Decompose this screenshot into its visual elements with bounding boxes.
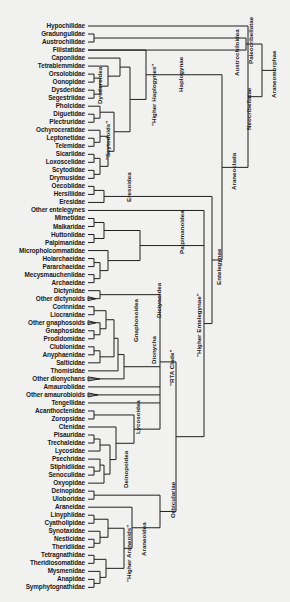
taxon-label: Anyphaenidae bbox=[43, 351, 85, 359]
taxon-label: Other entelegynes bbox=[31, 206, 85, 214]
taxon-label: Theridiosomatidae bbox=[30, 559, 85, 567]
taxon-label: Clubionidae bbox=[50, 343, 85, 351]
taxon-label: Micropholcommatidae bbox=[19, 247, 85, 255]
phylogenetic-tree: HypochilidaeGradungulidaeAustrochilidaeF… bbox=[0, 0, 290, 602]
taxon-label: Filistatidae bbox=[53, 46, 85, 54]
taxon-label: Cyatholipidae bbox=[44, 519, 85, 527]
taxon-label: Malkaridae bbox=[53, 223, 85, 231]
clade-label-araneoclada: Araneoclada bbox=[230, 153, 237, 190]
clade-label-higher-haplogynes: "Higher Haplogynes" bbox=[150, 64, 157, 126]
taxon-label: Dysderidae bbox=[52, 86, 85, 94]
taxon-label: Tetragnathidae bbox=[41, 551, 85, 559]
taxon-label: Telemidae bbox=[55, 142, 85, 150]
taxon-label: Other amaurobioids bbox=[26, 391, 85, 399]
clade-label-scytodoids: "Scytodoids" bbox=[104, 121, 111, 160]
taxon-label: Plectruridae bbox=[49, 118, 85, 126]
taxon-label: Synotaxidae bbox=[48, 527, 85, 535]
taxon-label: Theridiidae bbox=[52, 543, 85, 551]
taxon-label: Mecysmaucheniidae bbox=[25, 271, 85, 279]
taxon-label: Holarchaeidae bbox=[43, 255, 85, 263]
taxon-label: Senoculidae bbox=[48, 471, 85, 479]
clade-label-eresoidea: Eresoidea bbox=[125, 172, 132, 202]
taxon-label: Gradungulidae bbox=[41, 30, 85, 38]
clade-label-higher-entelegynae: "Higher Entelegynae" bbox=[195, 293, 202, 357]
taxon-label: Diguetidae bbox=[53, 110, 85, 118]
taxon-label: Oxyopidae bbox=[53, 479, 85, 487]
taxon-label: Liocranidae bbox=[50, 311, 85, 319]
taxon-label: Caponiidae bbox=[52, 54, 85, 62]
taxon-label: Drymusidae bbox=[49, 174, 85, 182]
taxon-label: Oecobiidae bbox=[52, 182, 85, 190]
clade-label-araneoidea: Araneoidea bbox=[140, 522, 147, 556]
taxon-label: Lycosidae bbox=[55, 447, 85, 455]
taxon-label: Huttoniidae bbox=[51, 231, 85, 239]
taxon-label: Prodidomidae bbox=[44, 335, 85, 343]
taxon-label: Acanthoctenidae bbox=[35, 407, 85, 415]
taxon-label: Gnaphosidae bbox=[46, 327, 85, 335]
taxon-label: Anapidae bbox=[57, 575, 85, 583]
taxon-label: Psechridae bbox=[52, 455, 85, 463]
taxon-label: Sicariidae bbox=[56, 150, 85, 158]
clade-label-dictynoidea: Dictynoidea bbox=[155, 283, 162, 318]
taxon-label: Segestriidae bbox=[48, 94, 85, 102]
clade-label-neocribellatae: Neocribellatae bbox=[245, 88, 252, 130]
clade-label-rta-clade: "RTA Clade" bbox=[168, 350, 175, 386]
taxon-label: Eresidae bbox=[59, 198, 85, 206]
taxon-label: Palpimanidae bbox=[45, 239, 85, 247]
taxon-label: Other dionychans bbox=[32, 375, 85, 383]
taxon-label: Dictynidae bbox=[54, 287, 85, 295]
clade-label-dionycha: Dionycha bbox=[150, 336, 157, 364]
taxon-label: Leptonetidae bbox=[46, 134, 85, 142]
taxon-label: Nesticidae bbox=[54, 535, 85, 543]
clade-label-paleocribellatae: Paleocribellatae bbox=[247, 17, 254, 64]
taxon-label: Salticidae bbox=[56, 359, 85, 367]
taxon-label: Araneidae bbox=[55, 503, 85, 511]
taxon-label: Archaeidae bbox=[52, 279, 85, 287]
taxon-label: Hersiliidae bbox=[54, 190, 85, 198]
taxon-label: Ochyroceratidae bbox=[36, 126, 85, 134]
taxon-label: Oonopidae bbox=[53, 78, 85, 86]
taxon-label: Scytodidae bbox=[52, 166, 85, 174]
taxon-label: Deinopidae bbox=[52, 487, 85, 495]
taxon-label: Mysmenidae bbox=[48, 567, 85, 575]
taxon-label: Thomisidae bbox=[50, 367, 85, 375]
clade-label-araneomorphae: Araneomorphae bbox=[270, 51, 277, 98]
taxon-label: Pararchaeidae bbox=[43, 263, 85, 271]
clade-label-higher-araneoids: "Higher Araneoids" bbox=[125, 525, 132, 582]
taxon-label: Pholcidae bbox=[56, 102, 85, 110]
clade-label-orbiculariae: Orbiculariae bbox=[169, 482, 176, 518]
taxon-label: Other dictynoids bbox=[36, 295, 85, 303]
taxon-label: Linyphiidae bbox=[51, 511, 85, 519]
taxon-label: Zoropsidae bbox=[52, 415, 85, 423]
taxon-label: Symphytognathidae bbox=[26, 583, 85, 591]
taxon-label: Tengellidae bbox=[51, 399, 85, 407]
taxon-label: Mimetidae bbox=[55, 214, 85, 222]
taxon-label: Amaurobiidae bbox=[44, 383, 85, 391]
taxon-label: Corinnidae bbox=[53, 303, 85, 311]
clade-label-austrochiloidea: Austrochiloidea bbox=[233, 29, 240, 76]
clade-label-entelegynae: Entelegynae bbox=[215, 249, 222, 285]
taxon-label: Stiphidiidae bbox=[50, 463, 85, 471]
clade-label-gnaphosoidea: Gnaphosoidea bbox=[132, 299, 139, 342]
taxon-label: Austrochilidae bbox=[42, 38, 85, 46]
clade-label-haplogynae: Haplogynae bbox=[177, 57, 184, 92]
taxon-label: Uloboridae bbox=[53, 495, 85, 503]
clade-label-dysderoidea: Dysderoidea bbox=[96, 67, 103, 104]
taxon-label: Hypochilidae bbox=[46, 22, 85, 30]
clade-label-lycosoidea: Lycosoidea bbox=[134, 400, 141, 434]
taxon-label: Trechaleidae bbox=[47, 439, 85, 447]
clade-label-palpimanoidea: Palpimanoidea bbox=[178, 210, 185, 254]
taxon-label: Pisauridae bbox=[54, 431, 85, 439]
taxon-label: Ctenidae bbox=[59, 423, 85, 431]
taxon-label: Other gnaphosoids bbox=[28, 319, 85, 327]
taxon-label: Loxoscelidae bbox=[46, 158, 85, 166]
taxon-label: Orsolobidae bbox=[49, 70, 85, 78]
taxon-label: Tetrablemmidae bbox=[38, 62, 85, 70]
clade-label-deinopoidea: Deinopoidea bbox=[122, 451, 129, 488]
